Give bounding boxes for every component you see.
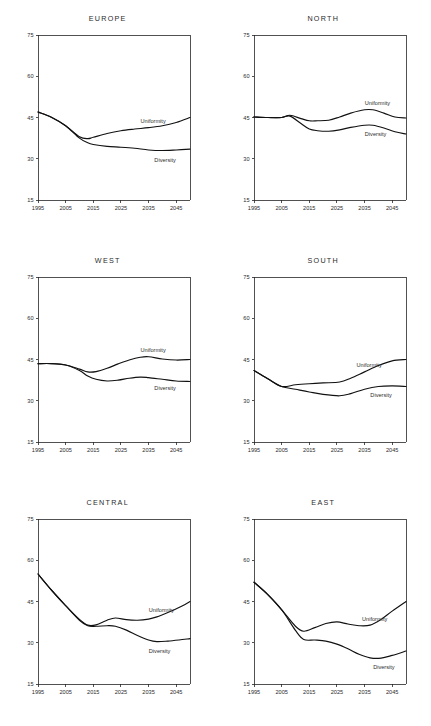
series-line-diversity [38,364,190,382]
series-line-uniformity [38,112,190,139]
panel-west: WEST 1530456075199520052015202520352045U… [0,242,216,484]
series-label-diversity: Diversity [364,131,386,137]
y-tick-label: 45 [27,599,33,605]
y-tick-label: 75 [243,274,249,280]
series-label-uniformity: Uniformity [362,616,387,622]
x-tick-label: 2005 [275,205,287,211]
x-tick-label: 2045 [385,689,397,695]
x-tick-label: 2025 [330,205,342,211]
y-tick-label: 75 [243,516,249,522]
plot-central: 1530456075199520052015202520352045Unifor… [0,484,216,726]
y-tick-label: 75 [27,274,33,280]
x-tick-label: 2035 [142,447,154,453]
y-tick-label: 75 [27,32,33,38]
plot-west: 1530456075199520052015202520352045Unifor… [0,242,216,484]
series-line-uniformity [254,582,406,631]
x-tick-label: 1995 [32,689,44,695]
x-tick-label: 1995 [247,205,259,211]
x-tick-label: 2005 [59,447,71,453]
x-tick-label: 2045 [170,447,182,453]
y-tick-label: 15 [27,197,33,203]
y-tick-label: 15 [243,197,249,203]
panel-central: CENTRAL 15304560751995200520152025203520… [0,484,216,726]
y-tick-label: 15 [243,439,249,445]
x-tick-label: 1995 [247,447,259,453]
y-tick-label: 45 [243,599,249,605]
series-label-diversity: Diversity [373,664,395,670]
y-tick-label: 30 [27,156,33,162]
x-tick-label: 2015 [87,689,99,695]
y-tick-label: 75 [27,516,33,522]
y-tick-label: 75 [243,32,249,38]
x-tick-label: 2025 [115,689,127,695]
x-tick-label: 2015 [303,205,315,211]
x-tick-label: 2005 [59,205,71,211]
x-tick-label: 2025 [330,447,342,453]
series-label-uniformity: Uniformity [149,607,174,613]
series-label-uniformity: Uniformity [141,118,166,124]
x-tick-label: 2035 [142,689,154,695]
plot-north: 1530456075199520052015202520352045Unifor… [216,0,431,242]
x-tick-label: 2015 [303,447,315,453]
x-tick-label: 2005 [275,689,287,695]
series-line-uniformity [254,360,406,387]
y-tick-label: 60 [243,73,249,79]
series-label-diversity: Diversity [370,392,392,398]
x-tick-label: 2025 [115,205,127,211]
x-tick-label: 2015 [87,447,99,453]
y-tick-label: 60 [27,557,33,563]
x-tick-label: 2035 [358,205,370,211]
panel-north: NORTH 1530456075199520052015202520352045… [216,0,431,242]
x-tick-label: 1995 [247,689,259,695]
y-tick-label: 45 [243,115,249,121]
y-tick-label: 45 [27,115,33,121]
x-tick-label: 2025 [115,447,127,453]
panel-east: EAST 1530456075199520052015202520352045U… [216,484,431,726]
y-tick-label: 30 [27,640,33,646]
y-tick-label: 30 [243,398,249,404]
x-tick-label: 2035 [358,447,370,453]
x-tick-label: 2005 [275,447,287,453]
series-line-uniformity [254,109,406,121]
series-label-uniformity: Uniformity [356,362,381,368]
plot-europe: 1530456075199520052015202520352045Unifor… [0,0,216,242]
x-tick-label: 2045 [385,205,397,211]
multi-panel-line-chart-figure: EUROPE 153045607519952005201520252035204… [0,0,431,726]
x-tick-label: 2025 [330,689,342,695]
plot-east: 1530456075199520052015202520352045Unifor… [216,484,431,726]
y-tick-label: 60 [243,315,249,321]
panel-south: SOUTH 1530456075199520052015202520352045… [216,242,431,484]
x-tick-label: 2035 [358,689,370,695]
y-tick-label: 60 [243,557,249,563]
x-tick-label: 2015 [303,689,315,695]
series-label-diversity: Diversity [149,648,171,654]
x-tick-label: 2005 [59,689,71,695]
series-label-diversity: Diversity [154,385,176,391]
y-tick-label: 45 [27,357,33,363]
x-tick-label: 1995 [32,447,44,453]
y-tick-label: 30 [243,640,249,646]
x-tick-label: 1995 [32,205,44,211]
plot-south: 1530456075199520052015202520352045Unifor… [216,242,431,484]
y-tick-label: 45 [243,357,249,363]
y-tick-label: 30 [27,398,33,404]
x-tick-label: 2045 [170,205,182,211]
x-tick-label: 2045 [385,447,397,453]
series-label-uniformity: Uniformity [364,100,389,106]
series-label-diversity: Diversity [154,157,176,163]
series-label-uniformity: Uniformity [141,347,166,353]
x-tick-label: 2045 [170,689,182,695]
y-tick-label: 60 [27,73,33,79]
series-line-diversity [38,112,190,151]
y-tick-label: 15 [27,439,33,445]
y-tick-label: 15 [243,681,249,687]
y-tick-label: 60 [27,315,33,321]
panel-grid: EUROPE 153045607519952005201520252035204… [0,0,431,726]
x-tick-label: 2035 [142,205,154,211]
panel-europe: EUROPE 153045607519952005201520252035204… [0,0,216,242]
y-tick-label: 30 [243,156,249,162]
x-tick-label: 2015 [87,205,99,211]
y-tick-label: 15 [27,681,33,687]
